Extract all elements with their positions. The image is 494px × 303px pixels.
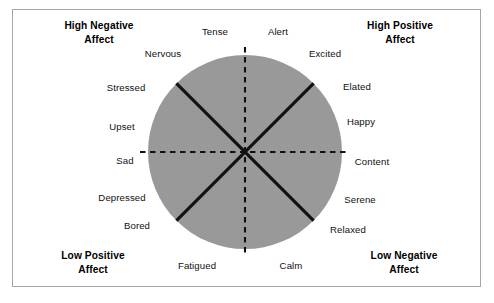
corner-label-high-positive-affect: High Positive Affect	[367, 19, 433, 47]
emotion-label-serene: Serene	[344, 194, 376, 205]
emotion-label-calm: Calm	[280, 260, 303, 271]
emotion-label-bored: Bored	[124, 220, 150, 231]
emotion-label-excited: Excited	[309, 48, 341, 59]
figure-frame	[12, 9, 481, 287]
emotion-label-alert: Alert	[268, 26, 288, 37]
emotion-label-fatigued: Fatigued	[178, 260, 216, 271]
emotion-label-tense: Tense	[202, 26, 228, 37]
emotion-label-elated: Elated	[343, 81, 371, 92]
circumplex-affect-figure: High Negative Affect High Positive Affec…	[0, 0, 494, 303]
corner-label-high-negative-affect: High Negative Affect	[64, 19, 133, 47]
emotion-label-content: Content	[355, 156, 389, 167]
emotion-label-nervous: Nervous	[145, 48, 181, 59]
emotion-label-stressed: Stressed	[107, 82, 146, 93]
emotion-label-upset: Upset	[109, 121, 135, 132]
emotion-label-sad: Sad	[116, 155, 133, 166]
corner-label-low-positive-affect: Low Positive Affect	[61, 249, 124, 277]
emotion-label-relaxed: Relaxed	[330, 224, 366, 235]
emotion-label-depressed: Depressed	[98, 192, 145, 203]
corner-label-low-negative-affect: Low Negative Affect	[371, 249, 438, 277]
emotion-label-happy: Happy	[347, 116, 375, 127]
